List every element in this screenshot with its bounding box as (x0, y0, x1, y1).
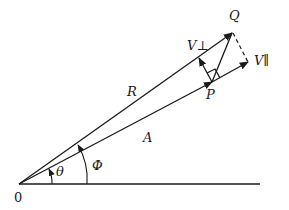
label-Q: Q (229, 8, 240, 23)
vector-R (19, 33, 232, 184)
label-origin: 0 (14, 190, 22, 205)
label-phi: Φ (92, 158, 103, 173)
label-V-parallel: V∥ (254, 53, 269, 68)
label-P: P (205, 87, 215, 102)
label-theta: θ (56, 164, 64, 179)
vector-diagram: 0 θ Φ R A P Q V⊥ V∥ (0, 0, 289, 210)
vector-A (19, 82, 212, 184)
label-R: R (126, 84, 137, 99)
theta-arc (49, 169, 52, 184)
dashed-projection-line (233, 33, 248, 62)
label-V-perp: V⊥ (187, 38, 209, 53)
label-A: A (142, 130, 152, 145)
vector-V-perp (199, 58, 212, 82)
